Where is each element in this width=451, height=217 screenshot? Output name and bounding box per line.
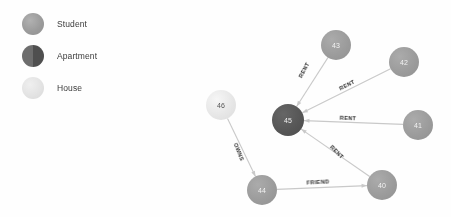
graph-node-43[interactable]: 43 (321, 30, 351, 60)
graph-node-41[interactable]: 41 (403, 110, 433, 140)
graph-node-40[interactable]: 40 (367, 170, 397, 200)
graph-edge-arrow-icon (304, 119, 310, 123)
graph-edge[interactable] (228, 119, 256, 177)
graph-node-44[interactable]: 44 (247, 175, 277, 205)
graph-node-46[interactable]: 46 (206, 90, 236, 120)
graph-node-42[interactable]: 42 (389, 47, 419, 77)
graph-node-label: 41 (414, 122, 422, 129)
graph-edge[interactable] (277, 186, 367, 190)
graph-edge-label: FRIEND (306, 178, 329, 185)
graph-node-label: 46 (217, 102, 225, 109)
graph-edge-arrow-icon (297, 101, 302, 107)
graph-node-label: 40 (378, 182, 386, 189)
graph-edge[interactable] (302, 69, 390, 113)
graph-edge[interactable] (297, 58, 328, 107)
graph-node-label: 44 (258, 187, 266, 194)
graph-visualization-panel: Student Apartment House 43424140444645 R… (0, 0, 451, 217)
graph-edge-label: RENT (340, 115, 357, 122)
graph-node-label: 43 (332, 42, 340, 49)
graph-edge-arrow-icon (302, 109, 308, 113)
graph-node-label: 42 (400, 59, 408, 66)
graph-edge-arrow-icon (301, 129, 307, 134)
graph-node-45[interactable]: 45 (272, 104, 304, 136)
graph-node-label: 45 (284, 117, 292, 124)
node-link-graph[interactable]: 43424140444645 RENTRENTRENTRENTFRIENDOWN… (0, 0, 451, 217)
